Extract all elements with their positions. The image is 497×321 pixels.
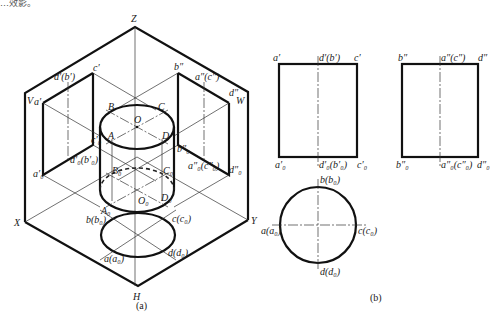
label-a-prime: a′ xyxy=(34,96,42,107)
top-label-d-d0: d(d₀) xyxy=(320,266,341,278)
label-D: D xyxy=(161,130,170,141)
front-label-c0-prime: c′₀ xyxy=(357,159,368,170)
front-view: a′ d′(b′) c′ a′₀ d′₀(b′₀) c′₀ xyxy=(273,52,368,171)
figure-canvas: …效影。 xyxy=(0,0,497,321)
top-label-c-c0: c(c₀) xyxy=(358,225,378,237)
label-b0-double-prime: b″₀ xyxy=(177,143,190,154)
side-label-b0-double-prime: b″₀ xyxy=(396,159,409,170)
label-B: B xyxy=(108,101,114,112)
top-label-b-b0: b(b₀) xyxy=(320,174,341,186)
label-d-double-prime: d″ xyxy=(229,87,239,98)
label-d-prime-b-prime: d′(b′) xyxy=(54,71,76,83)
projector-line xyxy=(118,73,178,108)
side-label-d-double-prime: d″ xyxy=(478,52,488,63)
isometric-view: Z X Y V H W a′ d′(b′) c′ a′₀ d′₀(b′₀) c′… xyxy=(13,13,258,312)
axis-label-x: X xyxy=(13,217,21,228)
top-view: b(b₀) a(a₀) c(c₀) d(d₀) xyxy=(261,174,378,278)
label-a-c-double-prime: a″(c″) xyxy=(195,71,220,83)
caption-b: (b) xyxy=(370,292,382,304)
label-a-a0: a(a₀) xyxy=(104,253,125,265)
label-b-b0: b(b₀) xyxy=(86,214,107,226)
header-text-fragment: …效影。 xyxy=(0,0,36,8)
label-a0-prime: a′₀ xyxy=(33,168,44,179)
label-d0-prime-b0-prime: d′₀(b′₀) xyxy=(70,154,99,166)
front-label-a-prime: a′ xyxy=(273,52,281,63)
front-label-c-prime: c′ xyxy=(354,52,361,63)
h-plane-outline xyxy=(25,220,248,286)
side-label-a-c-double-prime: a″(c″) xyxy=(441,52,466,64)
axis-label-z: Z xyxy=(131,13,137,24)
side-label-a0-c0-double-prime: a″₀(c″₀) xyxy=(441,159,473,171)
label-c0-prime: c′₀ xyxy=(91,134,102,145)
top-label-a-a0: a(a₀) xyxy=(261,225,282,237)
label-d0-double-prime: d″₀ xyxy=(229,164,242,175)
side-label-d0-double-prime: d″₀ xyxy=(477,159,490,170)
center-point-o xyxy=(136,126,138,128)
label-A: A xyxy=(107,130,115,141)
side-label-b-double-prime: b″ xyxy=(398,52,408,63)
label-C: C xyxy=(158,101,165,112)
front-label-d-prime-b-prime: d′(b′) xyxy=(319,52,341,64)
label-D0: D₀ xyxy=(160,192,172,203)
label-c-c0: c(c₀) xyxy=(172,213,192,225)
projector-line xyxy=(43,103,100,136)
projection-planes-frame xyxy=(25,27,248,286)
label-O0: O₀ xyxy=(138,195,149,206)
label-d-d0: d(d₀) xyxy=(168,247,189,259)
orthographic-views: a′ d′(b′) c′ a′₀ d′₀(b′₀) c′₀ b″ a″(c″) … xyxy=(261,52,490,304)
front-label-a0-prime: a′₀ xyxy=(275,159,286,170)
caption-a: (a) xyxy=(136,300,147,312)
label-a0-c0-double-prime: a″₀(c″₀) xyxy=(188,160,220,172)
axis-label-y: Y xyxy=(251,215,258,226)
projector-line xyxy=(43,175,100,207)
projector-line xyxy=(174,103,229,136)
label-C0: C₀ xyxy=(163,165,174,176)
side-view: b″ a″(c″) d″ b″₀ a″₀(c″₀) d″₀ xyxy=(396,52,490,171)
label-B0: B₀ xyxy=(112,165,122,176)
axes xyxy=(25,27,248,286)
label-b-double-prime: b″ xyxy=(174,61,184,72)
label-O: O xyxy=(134,114,141,125)
projector-line xyxy=(174,175,229,207)
label-c-prime: c′ xyxy=(93,62,100,73)
front-label-d0-prime-b0-prime: d′₀(b′₀) xyxy=(319,159,348,171)
